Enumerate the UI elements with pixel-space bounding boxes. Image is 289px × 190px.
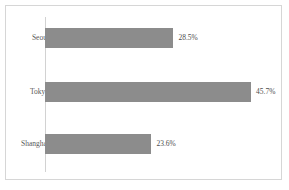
bar-chart: Seoul 28.5% Tokyo 45.7% Shanghai 23.6% [0,0,289,190]
bar-seoul [45,28,173,48]
value-label-shanghai: 23.6% [156,139,175,149]
bar-row: Shanghai 23.6% [0,128,289,176]
bar-row: Seoul 28.5% [0,22,289,70]
bar-track-shanghai [45,134,151,154]
value-label-tokyo: 45.7% [256,87,275,97]
value-label-seoul: 28.5% [178,33,197,43]
bar-tokyo [45,82,251,102]
bar-shanghai [45,134,151,154]
bar-track-seoul [45,28,173,48]
category-label-shanghai: Shanghai [0,139,49,149]
bar-track-tokyo [45,82,251,102]
bar-row: Tokyo 45.7% [0,76,289,124]
plot-area: Seoul 28.5% Tokyo 45.7% Shanghai 23.6% [0,0,289,190]
category-label-seoul: Seoul [0,33,49,43]
category-label-tokyo: Tokyo [0,87,49,97]
